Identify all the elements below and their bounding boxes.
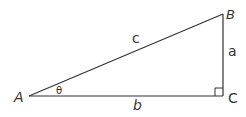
side-label-a: a <box>228 43 237 59</box>
right-angle-marker <box>215 88 223 96</box>
angle-label-theta: θ <box>56 85 62 96</box>
vertex-label-a: A <box>13 89 24 105</box>
side-label-b: b <box>133 97 142 113</box>
vertex-label-c: C <box>228 90 238 106</box>
vertex-label-b: B <box>226 7 235 22</box>
triangle-sides <box>29 14 223 96</box>
side-label-c: c <box>132 30 140 46</box>
side-c-hypotenuse <box>29 14 223 96</box>
triangle-diagram: A B C c a b θ <box>0 0 246 117</box>
